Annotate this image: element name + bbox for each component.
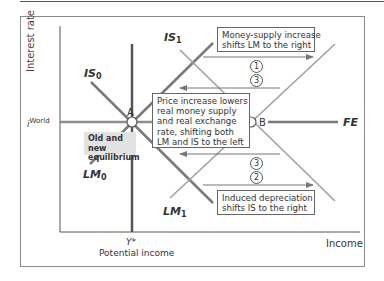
world-sup: World	[30, 117, 50, 125]
point-b-label: B	[259, 118, 266, 128]
lm1-label: LM1	[163, 206, 187, 219]
lm0-label: LM0	[83, 169, 107, 182]
step-1-badge: 1	[250, 60, 263, 73]
is0-label: IS0	[84, 68, 102, 81]
point-a-marker	[127, 117, 137, 127]
x-axis-label: Income	[326, 239, 363, 249]
equilibrium-label: Old and new equilibrium	[84, 132, 136, 155]
price-increase-annotation: Price increase lowers real money supply …	[152, 93, 250, 148]
step-2-badge: 2	[250, 171, 263, 184]
step-3-lower-badge: 3	[250, 157, 263, 170]
potential-income-label: Potential income	[99, 249, 174, 258]
is1-label: IS1	[164, 32, 182, 45]
point-a-label: A	[127, 108, 134, 118]
depreciation-annotation: Induced depreciation shifts IS to the ri…	[217, 190, 315, 215]
fe-label: FE	[343, 117, 358, 128]
y-axis-label: Interest rate	[25, 10, 36, 72]
i-world-label: iWorld	[27, 118, 50, 129]
y-star-label: Y*	[126, 238, 136, 247]
money-supply-annotation: Money-supply increase shifts LM to the r…	[217, 27, 315, 52]
step-3-upper-badge: 3	[250, 74, 263, 87]
